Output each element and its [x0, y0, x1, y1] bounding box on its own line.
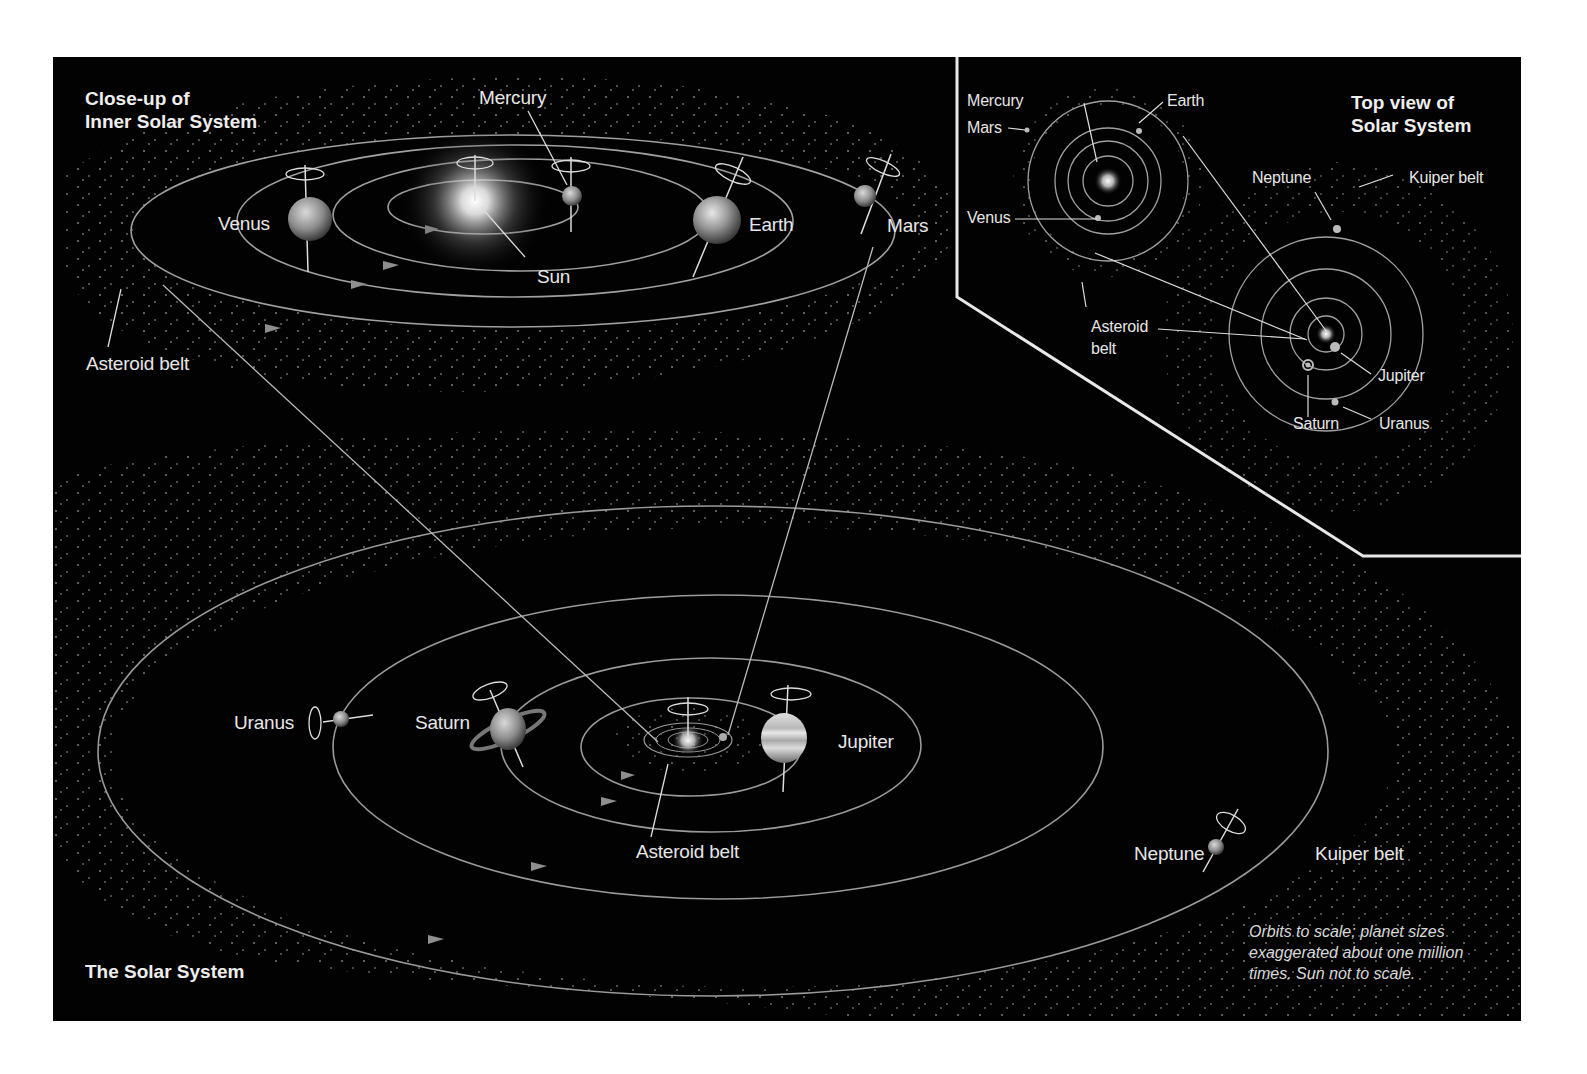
outer-panel-title: The Solar System [85, 960, 244, 983]
top-view-label-uranus: Uranus [1379, 414, 1429, 433]
inner-label-earth: Earth [749, 214, 793, 236]
inner-label-venus: Venus [218, 213, 270, 235]
top-view-outer-sun [1316, 324, 1336, 344]
inner-label-mercury: Mercury [479, 87, 546, 109]
outer-label-uranus: Uranus [234, 712, 294, 734]
top-view-label-asteroid-1: Asteroid [1091, 317, 1148, 336]
inner-earth [693, 157, 753, 277]
top-view-label-neptune: Neptune [1252, 168, 1311, 187]
top-view-label-kuiper-belt: Kuiper belt [1409, 168, 1483, 187]
inner-label-sun: Sun [537, 266, 570, 288]
inner-label-mars: Mars [887, 215, 928, 237]
top-view-label-saturn: Saturn [1293, 414, 1339, 433]
outer-label-saturn: Saturn [415, 712, 470, 734]
outer-label-kuiper-belt: Kuiper belt [1315, 843, 1404, 865]
outer-uranus [309, 707, 373, 739]
top-view-label-asteroid-2: belt [1091, 339, 1116, 358]
scale-note: Orbits to scale; planet sizes exaggerate… [1249, 921, 1509, 984]
outer-jupiter [761, 685, 811, 792]
top-view-title: Top view of Solar System [1351, 91, 1471, 137]
top-view-label-venus: Venus [967, 208, 1011, 227]
outer-label-neptune: Neptune [1134, 843, 1204, 865]
inner-panel-title: Close-up of Inner Solar System [85, 87, 257, 133]
top-view-label-jupiter: Jupiter [1378, 366, 1425, 385]
outer-label-asteroid-belt: Asteroid belt [636, 841, 739, 863]
inner-venus [286, 165, 332, 272]
inner-label-asteroid-belt: Asteroid belt [86, 353, 189, 375]
top-view-inner-sun [1094, 167, 1122, 195]
outer-neptune [1203, 808, 1249, 872]
top-view-label-earth: Earth [1167, 91, 1204, 110]
outer-saturn [468, 678, 549, 767]
solar-system-diagram: Close-up of Inner Solar System Top view … [53, 57, 1521, 1021]
diagram-artwork [53, 57, 1521, 1021]
outer-orbit-arrows [428, 771, 635, 944]
outer-label-jupiter: Jupiter [838, 731, 894, 753]
top-view-label-mars: Mars [967, 118, 1002, 137]
top-view-label-mercury: Mercury [967, 91, 1023, 110]
